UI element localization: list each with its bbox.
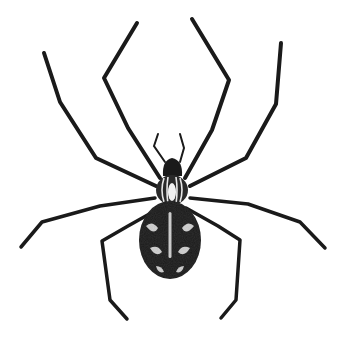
spider-illustration: [0, 0, 344, 339]
